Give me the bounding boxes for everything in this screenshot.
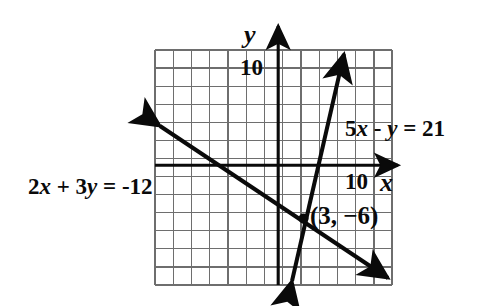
intersection-point-label: (3, −6) xyxy=(310,203,378,228)
equation-shallow-variable-y: y xyxy=(87,174,97,199)
equation-steep-coefficient: 5 xyxy=(345,116,357,141)
equation-label-steep-line: 5x - y = 21 xyxy=(345,117,445,140)
point-separator: , xyxy=(331,202,344,229)
equation-steep-operator: - xyxy=(368,116,387,141)
equation-steep-right-side: = 21 xyxy=(397,116,445,141)
grid-lines xyxy=(155,50,392,285)
point-close-paren: ) xyxy=(370,202,378,229)
equation-shallow-coefficient-1: 2 xyxy=(28,174,40,199)
x-axis-label: x xyxy=(380,170,393,196)
intersection-point-dot xyxy=(299,214,309,224)
x-axis-tick-label-10: 10 xyxy=(345,170,368,193)
point-y-value: −6 xyxy=(343,202,370,229)
point-x-value: 3 xyxy=(318,202,331,229)
y-axis-label: y xyxy=(244,22,256,48)
equation-shallow-operator: + xyxy=(51,174,76,199)
equation-steep-variable-x: x xyxy=(357,116,369,141)
equation-shallow-variable-x: x xyxy=(40,174,52,199)
figure-canvas: y x 10 10 5x - y = 21 2x + 3y = -12 (3, … xyxy=(0,0,503,306)
y-axis-tick-label-10: 10 xyxy=(240,56,263,79)
line-5x-minus-y-equals-21 xyxy=(292,54,344,281)
equation-shallow-coefficient-2: 3 xyxy=(76,174,88,199)
equation-shallow-right-side: = -12 xyxy=(97,174,152,199)
equation-label-shallow-line: 2x + 3y = -12 xyxy=(28,175,153,198)
equation-steep-variable-y: y xyxy=(387,116,397,141)
